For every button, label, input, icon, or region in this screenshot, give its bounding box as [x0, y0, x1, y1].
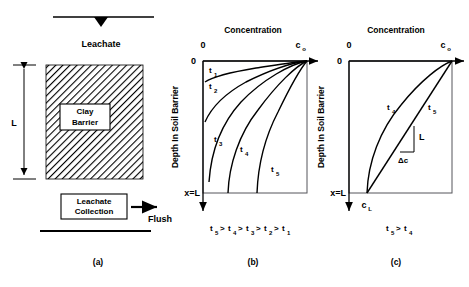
panel-b-caption: (b)	[248, 257, 259, 267]
panel-b-top-right-co-sub: o	[302, 46, 306, 52]
panel-b-label-t5-sub: 5	[276, 171, 280, 177]
panel-c-inequality: t 5 > t 4	[386, 224, 413, 236]
panel-b-curve-t4	[228, 61, 307, 193]
panel-b-label-t5: t	[271, 165, 274, 174]
panel-b-label-t2-sub: 2	[214, 88, 218, 94]
thickness-label-L: L	[11, 118, 17, 128]
gradient-run-label: Δc	[398, 156, 409, 165]
flush-label: Flush	[148, 214, 172, 224]
panel-b-top-right-co: c	[295, 40, 300, 50]
panel-b-ineq-t1: t	[282, 224, 285, 233]
panel-b-xaxis-title: Concentration	[224, 25, 282, 35]
panel-b-ineq-t4-sub: 4	[233, 230, 237, 236]
collection-label-line2: Collection	[75, 207, 114, 216]
panel-c-ineq-t4-sub: 4	[409, 230, 413, 236]
panel-b-label-t4-sub: 4	[245, 151, 249, 157]
panel-b-ineq-t3-sub: 3	[251, 230, 255, 236]
panel-b-ineq-op4: >	[274, 224, 279, 233]
panel-b-label-t1: t	[209, 66, 212, 75]
panel-a-caption: (a)	[93, 257, 104, 267]
panel-b-depth-L-label: x=L	[184, 188, 200, 198]
panel-c-cL-label: c	[361, 200, 366, 210]
panel-c-label-t5: t	[428, 103, 431, 112]
panel-b-label-t3: t	[214, 135, 217, 144]
panel-c-label-t5-sub: 5	[433, 109, 437, 115]
panel-b-ineq-t1-sub: 1	[287, 230, 291, 236]
gradient-rise-label: L	[419, 132, 425, 142]
panel-c: Concentration 0 c o 0 x=L Depth In Soil …	[316, 25, 464, 267]
panel-c-top-right-co-sub: o	[447, 46, 451, 52]
panel-c-ineq-t5-sub: 5	[391, 230, 395, 236]
panel-b-top-left-zero: 0	[200, 40, 205, 50]
panel-b-ineq-t3: t	[246, 224, 249, 233]
panel-b-curve-t3	[209, 61, 307, 182]
panel-b-ineq-t5-sub: 5	[215, 230, 219, 236]
panel-c-depth-L-label: x=L	[330, 188, 346, 198]
panel-b-ineq-op1: >	[220, 224, 225, 233]
panel-b-ineq-op3: >	[256, 224, 261, 233]
panel-b-yaxis-title: Depth In Soil Barrier	[170, 85, 180, 168]
panel-c-xaxis-title: Concentration	[367, 25, 425, 35]
clay-barrier-label-line1: Clay	[77, 107, 94, 116]
clay-barrier-label-line2: Barrier	[72, 118, 98, 127]
panel-b: Concentration 0 c o 0 x=L Depth In Soil …	[170, 25, 318, 267]
panel-c-ineq-op1: >	[396, 224, 401, 233]
leachate-label: Leachate	[81, 39, 120, 49]
panel-c-yaxis-title: Depth In Soil Barrier	[316, 85, 326, 168]
panel-c-origin-label: 0	[337, 56, 342, 66]
collection-label-line1: Leachate	[77, 197, 112, 206]
panel-c-curve-t5	[367, 61, 452, 193]
panel-b-ineq-t2-sub: 2	[269, 230, 273, 236]
panel-a: Leachate Clay Barrier L Leachate Collect…	[11, 17, 172, 267]
panel-c-top-left-zero: 0	[346, 40, 351, 50]
panel-c-label-t4: t	[387, 103, 390, 112]
panel-c-cL-label-sub: L	[368, 206, 372, 212]
panel-c-caption: (c)	[391, 257, 402, 267]
panel-b-ineq-t4: t	[228, 224, 231, 233]
panel-b-inequality: t 5 > t 4 > t 3 > t 2 > t 1	[210, 224, 291, 236]
panel-c-gradient-triangle: L Δc	[398, 126, 425, 165]
panel-b-label-t3-sub: 3	[219, 141, 223, 147]
panel-b-ineq-op2: >	[238, 224, 243, 233]
panel-b-ineq-t5: t	[210, 224, 213, 233]
figure-container: Leachate Clay Barrier L Leachate Collect…	[0, 0, 469, 287]
panel-c-ineq-t4: t	[404, 224, 407, 233]
panel-c-top-right-co: c	[440, 40, 445, 50]
panel-b-ineq-t2: t	[264, 224, 267, 233]
panel-b-origin-label: 0	[191, 56, 196, 66]
water-table-triangle-icon	[94, 17, 108, 27]
panel-b-plot-frame	[203, 61, 307, 193]
panel-b-label-t2: t	[209, 82, 212, 91]
panel-c-plot-frame	[349, 61, 452, 193]
panel-b-label-t4: t	[240, 145, 243, 154]
panel-c-ineq-t5: t	[386, 224, 389, 233]
